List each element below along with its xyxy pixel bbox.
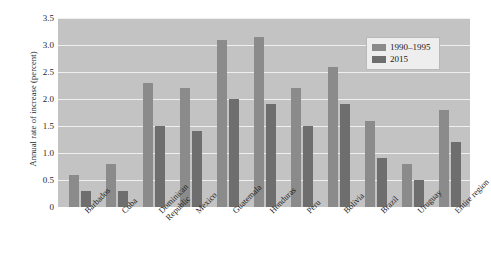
bar bbox=[328, 67, 338, 207]
y-axis-tick-labels: 3.53.02.52.01.51.00.50 bbox=[26, 18, 54, 207]
bar-group bbox=[246, 18, 283, 207]
bar-group bbox=[98, 18, 135, 207]
legend-item: 2015 bbox=[372, 53, 431, 65]
x-axis-tick-labels: BarbadosCubaDominicanRepublicMexicoGuate… bbox=[58, 207, 470, 280]
bar-group bbox=[283, 18, 320, 207]
y-tick-label: 1.0 bbox=[28, 148, 54, 158]
bar bbox=[451, 142, 461, 207]
legend-swatch-icon bbox=[372, 56, 386, 63]
bar bbox=[402, 164, 412, 207]
bar bbox=[155, 126, 165, 207]
y-tick-label: 2.5 bbox=[28, 67, 54, 77]
bar-group bbox=[135, 18, 172, 207]
bar bbox=[69, 175, 79, 207]
legend-label: 2015 bbox=[390, 54, 408, 64]
y-tick-label: 3.0 bbox=[28, 40, 54, 50]
bar-group bbox=[209, 18, 246, 207]
bar bbox=[143, 83, 153, 207]
y-tick-label: 0.5 bbox=[28, 175, 54, 185]
bar bbox=[266, 104, 276, 207]
legend-item: 1990–1995 bbox=[372, 41, 431, 53]
bar bbox=[106, 164, 116, 207]
chart-legend: 1990–1995 2015 bbox=[366, 37, 440, 70]
legend-label: 1990–1995 bbox=[390, 42, 431, 52]
legend-swatch-icon bbox=[372, 44, 386, 51]
bar bbox=[303, 126, 313, 207]
bar bbox=[254, 37, 264, 207]
bar bbox=[365, 121, 375, 207]
bar-group bbox=[320, 18, 357, 207]
y-tick-label: 0 bbox=[28, 202, 54, 212]
bar-group bbox=[61, 18, 98, 207]
y-tick-label: 2.0 bbox=[28, 94, 54, 104]
bar bbox=[217, 40, 227, 207]
bar bbox=[229, 99, 239, 207]
bar-group bbox=[172, 18, 209, 207]
y-tick-label: 1.5 bbox=[28, 121, 54, 131]
y-tick-label: 3.5 bbox=[28, 13, 54, 23]
bar bbox=[340, 104, 350, 207]
